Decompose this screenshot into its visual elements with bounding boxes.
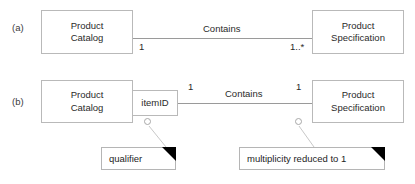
source-multiplicity-b: 1 [188,82,193,92]
note-multiplicity-text: multiplicity reduced to 1 [247,154,346,164]
row-label-b: (b) [12,97,24,107]
qualifier-box-itemid[interactable]: itemID [133,90,178,116]
leader-line-qualifier [149,126,166,147]
class-name-product-specification-a: Product Specification [331,20,385,45]
uml-diagram-canvas: (a) Product Catalog Contains 1 1..* Prod… [0,0,415,184]
note-fold-corner-icon [371,147,385,161]
note-qualifier[interactable]: qualifier [101,147,176,170]
association-line-a [133,38,312,39]
class-name-product-catalog-b: Product Catalog [71,89,104,114]
note-qualifier-text: qualifier [109,154,142,164]
class-box-product-specification-a[interactable]: Product Specification [312,10,404,54]
association-name-b: Contains [225,89,263,99]
note-fold-corner-icon [162,147,176,161]
leader-line-multiplicity [299,126,314,147]
source-multiplicity-a: 1 [139,42,144,52]
target-multiplicity-b: 1 [296,82,301,92]
class-name-product-specification-b: Product Specification [331,89,385,114]
row-label-a: (a) [12,23,24,33]
association-line-b [178,103,312,104]
note-anchor-circle-multiplicity [295,118,302,125]
target-multiplicity-a: 1..* [290,42,304,52]
class-box-product-specification-b[interactable]: Product Specification [312,80,404,123]
note-multiplicity[interactable]: multiplicity reduced to 1 [239,147,385,170]
class-box-product-catalog-b[interactable]: Product Catalog [41,80,133,123]
qualifier-name-itemid: itemID [141,98,168,108]
class-name-product-catalog-a: Product Catalog [71,20,104,45]
note-anchor-circle-qualifier [144,118,151,125]
association-name-a: Contains [203,24,241,34]
class-box-product-catalog-a[interactable]: Product Catalog [41,10,133,54]
